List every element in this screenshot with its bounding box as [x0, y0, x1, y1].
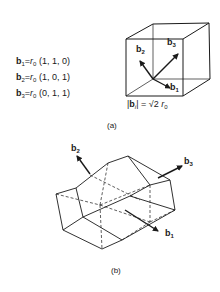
definition-b1: b1=r0 (1, 1, 0)	[16, 55, 70, 71]
definition-b3: b3=r0 (0, 1, 1)	[16, 87, 70, 103]
b3-arrow	[153, 54, 178, 79]
cube-label-b3: b3	[167, 37, 176, 48]
wigner-seitz-cell	[56, 156, 175, 249]
cell-label-b2: b2	[71, 143, 80, 154]
b2-arrow-b	[77, 156, 90, 174]
vector-definitions: b1=r0 (1, 1, 0) b2=r0 (1, 0, 1) b3=r0 (0…	[16, 55, 70, 103]
cell-label-b1: b1	[165, 228, 174, 239]
b1-arrow	[153, 79, 170, 88]
cube-diagram	[126, 23, 210, 96]
definition-b2: b2=r0 (1, 0, 1)	[16, 71, 70, 87]
cube-label-b1: b1	[170, 82, 179, 93]
caption-b: (b)	[111, 266, 121, 275]
caption-a: (a)	[107, 121, 117, 130]
b2-arrow	[140, 61, 153, 79]
cell-label-b3: b3	[184, 156, 193, 167]
cube-label-b2: b2	[136, 44, 145, 55]
figure-canvas	[0, 0, 220, 292]
b3-arrow-b	[158, 166, 182, 178]
norm-label: |bi| = √2 r0	[127, 99, 168, 110]
